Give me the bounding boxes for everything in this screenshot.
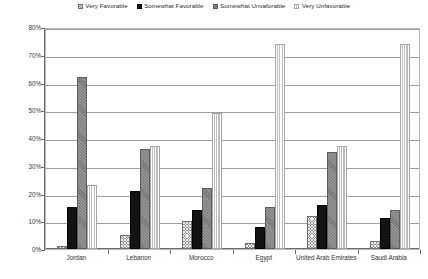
chart-legend: Very Favorable Somewhat Favorable Somewh… [0, 3, 428, 9]
y-axis-tick-label: 60% [1, 80, 41, 86]
bar[interactable] [255, 227, 265, 249]
y-axis-tick-mark [41, 139, 45, 140]
legend-swatch-icon [78, 4, 83, 9]
legend-swatch-icon [213, 4, 218, 9]
x-axis-category-label: Saudi Arabia [358, 254, 420, 262]
bar[interactable] [67, 207, 77, 249]
bar-group [234, 29, 297, 249]
bar[interactable] [265, 207, 275, 249]
bar[interactable] [390, 210, 400, 249]
legend-label: Very Favorable [85, 3, 127, 9]
legend-swatch-icon [137, 4, 142, 9]
legend-label: Somewhat Favorable [144, 3, 203, 9]
bar[interactable] [202, 188, 212, 249]
y-axis-tick-mark [41, 195, 45, 196]
plot-area [46, 29, 419, 249]
bar[interactable] [192, 210, 202, 249]
bar-group [296, 29, 359, 249]
legend-item-somewhat-unfavorable[interactable]: Somewhat Unvaforable [213, 3, 286, 9]
y-axis-tick-mark [41, 250, 45, 251]
x-axis-tick-mark [420, 250, 421, 254]
x-axis-category-label: Lebanon [108, 254, 170, 262]
legend-item-very-unfavorable[interactable]: Very Unfavorable [294, 3, 350, 9]
y-axis-tick-label: 10% [1, 219, 41, 225]
y-axis-tick-label: 50% [1, 108, 41, 114]
bar[interactable] [150, 146, 160, 249]
y-axis-tick-label: 30% [1, 164, 41, 170]
y-axis-tick-label: 0% [1, 247, 41, 253]
bar[interactable] [370, 241, 380, 249]
bar[interactable] [275, 44, 285, 249]
bar[interactable] [57, 246, 67, 249]
bar[interactable] [212, 113, 222, 249]
y-axis-tick-mark [41, 222, 45, 223]
y-axis-tick-mark [41, 28, 45, 29]
y-axis-tick-label: 40% [1, 136, 41, 142]
bar-chart: Very Favorable Somewhat Favorable Somewh… [0, 0, 428, 279]
bar[interactable] [87, 185, 97, 249]
legend-item-very-favorable[interactable]: Very Favorable [78, 3, 128, 9]
bar[interactable] [140, 149, 150, 249]
x-axis-category-label: Morocco [170, 254, 232, 262]
bar-group [46, 29, 109, 249]
bar[interactable] [327, 152, 337, 249]
y-axis-tick-label: 20% [1, 191, 41, 197]
bar-group [171, 29, 234, 249]
legend-label: Very Unfavorable [302, 3, 350, 9]
bar[interactable] [307, 216, 317, 249]
legend-swatch-icon [294, 4, 299, 9]
bar[interactable] [245, 243, 255, 249]
legend-item-somewhat-favorable[interactable]: Somewhat Favorable [137, 3, 204, 9]
bar[interactable] [317, 205, 327, 249]
bar[interactable] [380, 218, 390, 249]
plot-frame [45, 28, 420, 250]
legend-label: Somewhat Unvaforable [220, 3, 285, 9]
y-axis-tick-mark [41, 84, 45, 85]
y-axis-tick-mark [41, 167, 45, 168]
bar[interactable] [182, 221, 192, 249]
bar[interactable] [337, 146, 347, 249]
bar-group [359, 29, 422, 249]
bar-group [109, 29, 172, 249]
bar[interactable] [120, 235, 130, 249]
x-axis-category-label: Egypt [233, 254, 295, 262]
y-axis-tick-label: 70% [1, 53, 41, 59]
x-axis-category-label: Jordan [45, 254, 107, 262]
bar[interactable] [130, 191, 140, 249]
x-axis-category-label: United Arab Emirates [295, 254, 357, 262]
bar[interactable] [400, 44, 410, 249]
y-axis-tick-mark [41, 111, 45, 112]
y-axis-tick-label: 80% [1, 25, 41, 31]
bar[interactable] [77, 77, 87, 249]
y-axis-tick-mark [41, 56, 45, 57]
